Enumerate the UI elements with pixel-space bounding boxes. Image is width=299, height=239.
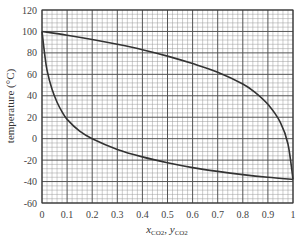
phase-diagram-chart: 120100806040200-20-40-60 00.10.20.30.40.… [0,0,299,239]
y-tick-label: 100 [22,26,37,37]
y-tick-label: 40 [27,90,37,101]
x-tick-label: 0.5 [161,209,174,220]
y-tick-labels: 120100806040200-20-40-60 [22,5,37,209]
x-tick-labels: 00.10.20.30.40.50.60.70.80.91 [40,209,296,220]
x-tick-label: 0 [40,209,45,220]
y-tick-label: 80 [27,47,37,58]
y-tick-label: 0 [32,133,37,144]
major-grid [42,10,293,203]
y-tick-label: 20 [27,112,37,123]
x-tick-label: 0.3 [111,209,124,220]
x-tick-label: 1 [291,209,296,220]
x-tick-label: 0.8 [237,209,250,220]
y-axis-label: temperature (°C) [4,68,17,143]
x-tick-label: 0.6 [186,209,199,220]
y-tick-label: -40 [24,176,37,187]
x-tick-label: 0.9 [262,209,275,220]
y-tick-label: 60 [27,69,37,80]
x-tick-label: 0.1 [61,209,74,220]
y-tick-label: 120 [22,5,37,16]
x-tick-label: 0.2 [86,209,99,220]
x-axis-label: xCO2, yCO2 [145,223,188,237]
y-tick-label: -20 [24,155,37,166]
y-tick-label: -60 [24,198,37,209]
x-tick-label: 0.4 [136,209,149,220]
x-tick-label: 0.7 [211,209,224,220]
